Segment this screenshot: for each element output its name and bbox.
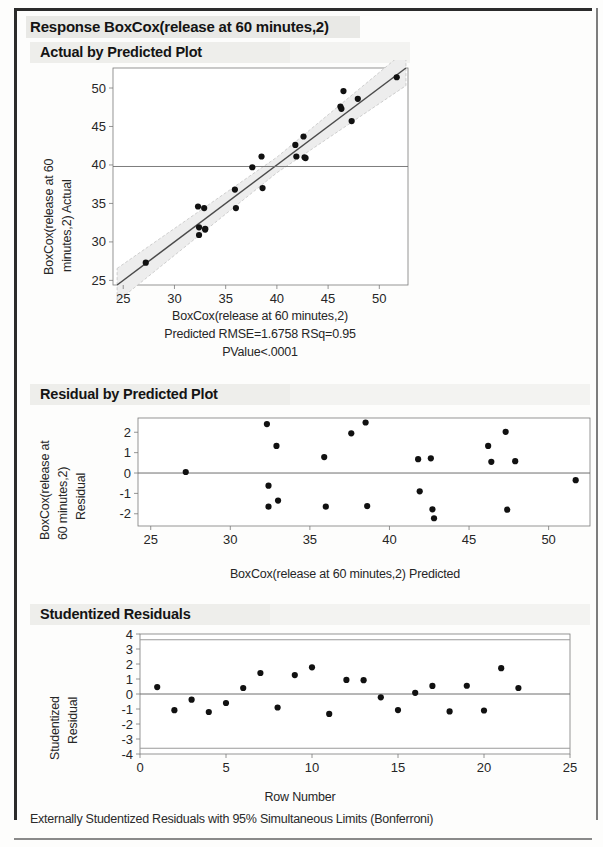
x-tick-label: 40 — [382, 532, 396, 547]
data-point[interactable] — [338, 106, 344, 112]
data-point[interactable] — [573, 477, 579, 483]
studentized-residuals-plot[interactable]: 0510152025-4-3-2-101234 — [0, 626, 603, 786]
data-point[interactable] — [321, 454, 327, 460]
data-point[interactable] — [264, 421, 270, 427]
data-point[interactable] — [498, 665, 504, 671]
data-point[interactable] — [417, 488, 423, 494]
data-point[interactable] — [512, 458, 518, 464]
data-point[interactable] — [189, 697, 195, 703]
data-point[interactable] — [364, 503, 370, 509]
data-point[interactable] — [355, 96, 361, 102]
data-point[interactable] — [257, 670, 263, 676]
data-point[interactable] — [348, 430, 354, 436]
data-point[interactable] — [343, 677, 349, 683]
y-tick-label: 50 — [92, 81, 106, 96]
data-point[interactable] — [143, 260, 149, 266]
data-point[interactable] — [265, 504, 271, 510]
actual-plot-ylabel-line1: BoxCox(release at 60 — [42, 159, 56, 275]
data-point[interactable] — [196, 232, 202, 238]
x-tick-label: 50 — [541, 532, 555, 547]
actual-plot-caption-line1: BoxCox(release at 60 minutes,2) — [110, 309, 410, 323]
y-tick-label: -1 — [121, 702, 133, 717]
data-point[interactable] — [431, 515, 437, 521]
data-point[interactable] — [183, 469, 189, 475]
data-point[interactable] — [464, 683, 470, 689]
data-point[interactable] — [429, 683, 435, 689]
data-point[interactable] — [259, 185, 265, 191]
studentized-plot-ylabel-line2: Residual — [66, 697, 80, 744]
y-tick-label: 35 — [92, 196, 106, 211]
section-header-residual-by-predicted[interactable]: Residual by Predicted Plot — [30, 384, 290, 405]
data-point[interactable] — [394, 74, 400, 80]
x-tick-label: 30 — [223, 532, 237, 547]
section-header-studentized-residuals[interactable]: Studentized Residuals — [30, 604, 270, 625]
data-point[interactable] — [196, 224, 202, 230]
data-point[interactable] — [504, 507, 510, 513]
data-point[interactable] — [171, 707, 177, 713]
data-point[interactable] — [488, 459, 494, 465]
y-tick-label: 2 — [124, 425, 131, 440]
data-point[interactable] — [232, 186, 238, 192]
studentized-residuals-canvas: 0510152025-4-3-2-101234 — [0, 626, 603, 786]
data-point[interactable] — [302, 155, 308, 161]
residual-by-predicted-canvas: 253035404550-2-1012 — [0, 408, 603, 558]
data-point[interactable] — [206, 709, 212, 715]
y-tick-label: 0 — [124, 466, 131, 481]
data-point[interactable] — [154, 684, 160, 690]
data-point[interactable] — [195, 203, 201, 209]
studentized-plot-xlabel: Row Number — [180, 790, 420, 804]
data-point[interactable] — [300, 133, 306, 139]
y-tick-label: 3 — [126, 642, 133, 657]
jmp-report-page: Response BoxCox(release at 60 minutes,2)… — [0, 0, 603, 847]
x-tick-label: 10 — [305, 760, 319, 775]
data-point[interactable] — [428, 455, 434, 461]
data-point[interactable] — [202, 226, 208, 232]
data-point[interactable] — [323, 504, 329, 510]
data-point[interactable] — [515, 685, 521, 691]
data-point[interactable] — [481, 707, 487, 713]
data-point[interactable] — [265, 483, 271, 489]
x-tick-label: 5 — [222, 760, 229, 775]
x-tick-label: 25 — [563, 760, 577, 775]
residual-by-predicted-plot[interactable]: 253035404550-2-1012 — [0, 408, 603, 558]
data-point[interactable] — [309, 664, 315, 670]
y-tick-label: -2 — [119, 506, 131, 521]
data-point[interactable] — [275, 497, 281, 503]
data-point[interactable] — [292, 672, 298, 678]
data-point[interactable] — [412, 690, 418, 696]
data-point[interactable] — [273, 443, 279, 449]
data-point[interactable] — [275, 704, 281, 710]
data-point[interactable] — [223, 700, 229, 706]
data-point[interactable] — [429, 506, 435, 512]
data-point[interactable] — [201, 205, 207, 211]
y-tick-label: 1 — [124, 445, 131, 460]
data-point[interactable] — [361, 677, 367, 683]
y-tick-label: 45 — [92, 119, 106, 134]
data-point[interactable] — [240, 685, 246, 691]
data-point[interactable] — [233, 205, 239, 211]
response-title: Response BoxCox(release at 60 minutes,2) — [26, 16, 360, 38]
data-point[interactable] — [485, 443, 491, 449]
x-tick-label: 25 — [116, 291, 130, 306]
data-point[interactable] — [340, 88, 346, 94]
x-tick-label: 45 — [462, 532, 476, 547]
data-point[interactable] — [258, 153, 264, 159]
actual-plot-ylabel-line2: minutes,2) Actual — [60, 180, 74, 272]
data-point[interactable] — [395, 707, 401, 713]
data-point[interactable] — [349, 118, 355, 124]
data-point[interactable] — [378, 694, 384, 700]
data-point[interactable] — [503, 429, 509, 435]
data-point[interactable] — [326, 711, 332, 717]
y-tick-label: 4 — [126, 627, 133, 642]
data-point[interactable] — [249, 164, 255, 170]
x-tick-label: 50 — [372, 291, 386, 306]
y-tick-label: 25 — [92, 273, 106, 288]
data-point[interactable] — [293, 153, 299, 159]
y-tick-label: 1 — [126, 672, 133, 687]
data-point[interactable] — [415, 456, 421, 462]
x-tick-label: 35 — [218, 291, 232, 306]
data-point[interactable] — [447, 708, 453, 714]
data-point[interactable] — [362, 419, 368, 425]
data-point[interactable] — [292, 142, 298, 148]
actual-plot-caption-line2: Predicted RMSE=1.6758 RSq=0.95 — [110, 327, 410, 341]
